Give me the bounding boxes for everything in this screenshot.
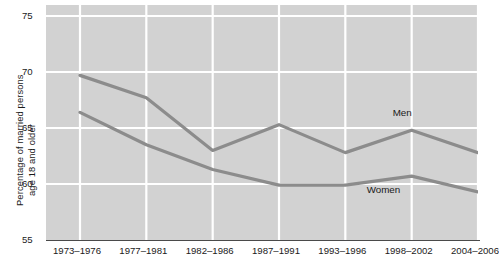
y-tick-label: 70 [22, 66, 46, 77]
series-annotation-men: Men [393, 107, 412, 118]
x-tick-label: 1982–1986 [186, 245, 234, 256]
plot-svg [46, 5, 478, 241]
y-axis-tick-labels: 5560657075 [20, 0, 46, 250]
x-tick-label: 1993–1996 [318, 245, 366, 256]
y-tick-label: 55 [22, 234, 46, 245]
x-tick-label: 1973–1976 [53, 245, 101, 256]
x-tick-label: 1977–1981 [119, 245, 167, 256]
x-axis-line [46, 240, 480, 241]
plot-area: Men Women [46, 5, 478, 241]
x-tick-label: 2004–2006 [451, 245, 499, 256]
x-tick-label: 1998–2002 [385, 245, 433, 256]
x-tick-label: 1987–1991 [252, 245, 300, 256]
y-tick-label: 60 [22, 178, 46, 189]
series-annotation-women: Women [367, 184, 401, 195]
y-tick-label: 65 [22, 122, 46, 133]
horizontal-gridlines [46, 16, 478, 184]
y-tick-label: 75 [22, 10, 46, 21]
vertical-gridlines [80, 5, 478, 241]
